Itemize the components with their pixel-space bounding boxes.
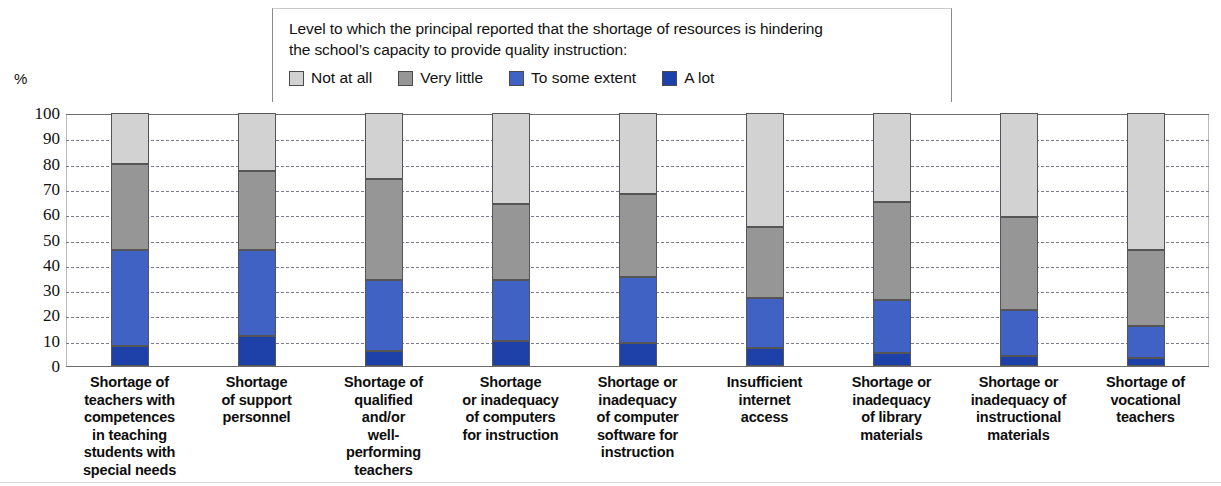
chart-page: Level to which the principal reported th… xyxy=(0,0,1221,486)
category-label-line: teachers xyxy=(1082,409,1209,427)
category-label-line: for instruction xyxy=(447,427,574,445)
category-label-1: Shortage ofteachers withcompetencesin te… xyxy=(66,374,193,479)
bar-segment-not-at-all xyxy=(746,113,784,227)
y-axis-tick-0: 0 xyxy=(0,357,60,377)
bar-segment-not-at-all xyxy=(619,113,657,194)
category-label-line: in teaching xyxy=(66,427,193,445)
category-label-2: Shortageof supportpersonnel xyxy=(193,374,320,427)
bar-segment-not-at-all xyxy=(492,113,530,204)
y-axis-tick-100: 100 xyxy=(0,104,60,124)
category-label-3: Shortage ofqualifiedand/orwell-performin… xyxy=(320,374,447,479)
bar-segment-to-some-extent xyxy=(873,300,911,353)
legend-items: Not at allVery littleTo some extentA lot xyxy=(289,69,937,87)
bar-3 xyxy=(365,113,403,366)
bar-segment-a-lot xyxy=(619,343,657,366)
bar-segment-a-lot xyxy=(1000,356,1038,366)
legend-item-label: A lot xyxy=(684,69,714,87)
category-label-line: students with xyxy=(66,444,193,462)
bar-2 xyxy=(238,113,276,366)
bar-segment-to-some-extent xyxy=(111,250,149,346)
y-axis-tick-90: 90 xyxy=(0,129,60,149)
bar-segment-to-some-extent xyxy=(619,277,657,343)
plot-right-edge xyxy=(1208,115,1209,366)
category-label-line: special needs xyxy=(66,462,193,480)
bar-segment-very-little xyxy=(873,202,911,301)
bar-segment-to-some-extent xyxy=(746,298,784,349)
bar-5 xyxy=(619,113,657,366)
category-label-line: Shortage xyxy=(193,374,320,392)
y-axis-tick-30: 30 xyxy=(0,281,60,301)
bottom-rule xyxy=(0,482,1221,483)
category-label-5: Shortage orinadequacyof computersoftware… xyxy=(574,374,701,462)
category-label-line: Shortage or xyxy=(574,374,701,392)
category-label-line: inadequacy xyxy=(828,392,955,410)
category-label-4: Shortageor inadequacyof computersfor ins… xyxy=(447,374,574,444)
legend-note: Level to which the principal reported th… xyxy=(289,18,937,60)
legend-item-label: To some extent xyxy=(531,69,636,87)
legend-note-line-2: the school’s capacity to provide quality… xyxy=(289,39,937,60)
category-label-line: Shortage xyxy=(447,374,574,392)
category-label-line: instructional xyxy=(955,409,1082,427)
category-label-line: inadequacy xyxy=(574,392,701,410)
legend-item-to-some-extent: To some extent xyxy=(509,69,636,87)
legend-item-not-at-all: Not at all xyxy=(289,69,372,87)
category-label-line: of library xyxy=(828,409,955,427)
axis-unit-label: % xyxy=(14,70,27,87)
category-label-line: of computers xyxy=(447,409,574,427)
plot-area xyxy=(66,114,1209,367)
legend-note-line-1: Level to which the principal reported th… xyxy=(289,18,937,39)
y-axis-tick-50: 50 xyxy=(0,231,60,251)
legend-item-label: Very little xyxy=(420,69,483,87)
legend-box: Level to which the principal reported th… xyxy=(272,8,952,102)
bar-6 xyxy=(746,113,784,366)
category-label-8: Shortage orinadequacy ofinstructionalmat… xyxy=(955,374,1082,444)
bar-9 xyxy=(1127,113,1165,366)
category-label-line: materials xyxy=(955,427,1082,445)
category-label-line: internet xyxy=(701,392,828,410)
category-label-line: vocational xyxy=(1082,392,1209,410)
bar-segment-very-little xyxy=(619,194,657,277)
category-label-line: personnel xyxy=(193,409,320,427)
category-label-line: Insufficient xyxy=(701,374,828,392)
category-label-line: and/or xyxy=(320,409,447,427)
bar-segment-a-lot xyxy=(111,346,149,366)
bar-segment-to-some-extent xyxy=(365,280,403,351)
category-label-line: of computer xyxy=(574,409,701,427)
category-label-line: of support xyxy=(193,392,320,410)
bar-segment-to-some-extent xyxy=(1127,326,1165,359)
y-axis-tick-70: 70 xyxy=(0,180,60,200)
category-label-line: or inadequacy xyxy=(447,392,574,410)
category-label-line: performing xyxy=(320,444,447,462)
legend-item-label: Not at all xyxy=(311,69,372,87)
category-label-line: Shortage or xyxy=(955,374,1082,392)
bar-segment-very-little xyxy=(1127,250,1165,326)
bar-segment-a-lot xyxy=(238,336,276,366)
bar-segment-a-lot xyxy=(873,353,911,366)
y-axis-tick-40: 40 xyxy=(0,256,60,276)
bar-segment-not-at-all xyxy=(365,113,403,179)
category-label-line: Shortage or xyxy=(828,374,955,392)
category-label-line: instruction xyxy=(574,444,701,462)
category-label-line: competences xyxy=(66,409,193,427)
category-label-line: well- xyxy=(320,427,447,445)
bar-segment-very-little xyxy=(365,179,403,280)
category-axis: Shortage ofteachers withcompetencesin te… xyxy=(66,374,1209,486)
bar-segment-a-lot xyxy=(492,341,530,366)
bar-segment-a-lot xyxy=(1127,358,1165,366)
y-axis-tick-60: 60 xyxy=(0,205,60,225)
category-label-line: Shortage of xyxy=(1082,374,1209,392)
plot-left-edge xyxy=(66,115,67,366)
legend-swatch-icon xyxy=(289,71,304,86)
category-label-7: Shortage orinadequacyof librarymaterials xyxy=(828,374,955,444)
bar-segment-not-at-all xyxy=(1000,113,1038,217)
bar-segment-to-some-extent xyxy=(1000,310,1038,356)
bar-segment-to-some-extent xyxy=(238,250,276,336)
bar-8 xyxy=(1000,113,1038,366)
category-label-line: qualified xyxy=(320,392,447,410)
category-label-line: access xyxy=(701,409,828,427)
category-label-line: materials xyxy=(828,427,955,445)
bar-segment-not-at-all xyxy=(238,113,276,171)
bar-1 xyxy=(111,113,149,366)
legend-swatch-icon xyxy=(662,71,677,86)
bar-segment-not-at-all xyxy=(873,113,911,202)
